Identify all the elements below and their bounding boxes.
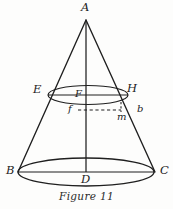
figure-caption: Figure 11 [0, 190, 173, 202]
slant-line-right [86, 20, 155, 172]
label-point-h: H [127, 83, 137, 95]
label-point-b-slant: b [137, 104, 143, 114]
figure-container: A E H F f b m B C D Figure 11 [0, 0, 173, 209]
label-point-c-base: C [160, 165, 169, 177]
label-point-e: E [33, 84, 41, 96]
label-point-f-upper: F [75, 89, 82, 99]
label-apex-a: A [81, 2, 89, 14]
label-point-f-lower: f [68, 104, 72, 114]
label-point-b-base: B [6, 165, 14, 177]
label-point-m: m [117, 112, 126, 122]
label-point-d-base: D [81, 174, 90, 186]
